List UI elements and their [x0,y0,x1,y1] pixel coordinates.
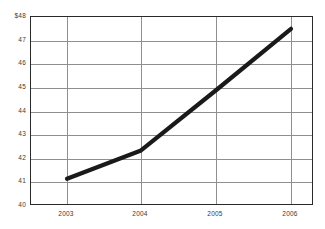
x-tick-2005: 2005 [195,211,235,218]
x-tick-2004: 2004 [120,211,160,218]
x-axis-labels: 2003 2004 2005 2006 [0,0,325,229]
x-tick-2006: 2006 [270,211,310,218]
line-chart: $48 47 46 45 44 43 42 41 40 2003 2004 20… [0,0,325,229]
x-tick-2003: 2003 [46,211,86,218]
